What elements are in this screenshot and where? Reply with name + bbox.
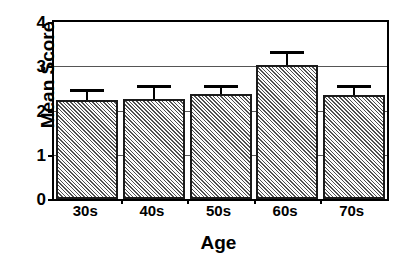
y-tick-label-4: 4	[20, 14, 46, 31]
y-tick-label-1: 1	[20, 147, 46, 164]
bar-chart-figure: Mean Score 01234 Age 30s40s50s60s70s	[0, 0, 419, 263]
bar-70s	[323, 95, 385, 199]
gridline-y-3	[54, 66, 387, 67]
x-axis-title: Age	[52, 232, 385, 254]
y-tick-0	[48, 199, 54, 201]
bar-60s	[256, 65, 318, 199]
y-tick-label-3: 3	[20, 58, 46, 75]
plot-area: 01234	[52, 20, 389, 201]
x-axis-label-70s: 70s	[318, 202, 385, 219]
x-axis-label-40s: 40s	[119, 202, 186, 219]
y-tick-2	[48, 111, 54, 113]
error-bar-cap-60s	[270, 51, 304, 54]
bar-30s	[56, 100, 118, 199]
y-tick-4	[48, 22, 54, 24]
error-bar-cap-50s	[204, 85, 238, 88]
x-axis-label-30s: 30s	[52, 202, 119, 219]
bar-40s	[123, 99, 185, 199]
error-bar-stem-70s	[353, 85, 355, 95]
error-bar-stem-60s	[286, 51, 288, 65]
error-bar-stem-50s	[220, 85, 222, 94]
error-bar-cap-70s	[337, 85, 371, 88]
y-tick-label-2: 2	[20, 103, 46, 120]
y-tick-3	[48, 66, 54, 68]
error-bar-stem-30s	[86, 89, 88, 100]
error-bar-cap-30s	[70, 89, 104, 92]
y-tick-label-0: 0	[20, 191, 46, 208]
bar-50s	[190, 94, 252, 199]
x-axis-label-60s: 60s	[252, 202, 319, 219]
error-bar-cap-40s	[137, 85, 171, 88]
error-bar-stem-40s	[153, 85, 155, 100]
y-tick-1	[48, 155, 54, 157]
x-axis-label-50s: 50s	[185, 202, 252, 219]
